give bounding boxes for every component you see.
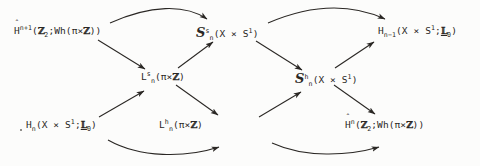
scan-speck — [20, 129, 22, 131]
arrow-arc-tl-to-tm — [110, 9, 207, 23]
node-middle-right: Shn(X × S1) — [295, 72, 357, 85]
node-paren-close: ) — [91, 119, 97, 130]
node-top-left: ˆHn+1(ℤ2;Wh(π×ℤ)) — [14, 26, 101, 36]
node-paren-close: ) — [451, 25, 457, 36]
script-s-symbol: S — [196, 25, 206, 40]
node-bottom-middle: Lhn(π×ℤ) — [159, 120, 203, 130]
node-args: (X × S — [36, 119, 71, 130]
node-subscript: n−1 — [384, 31, 396, 39]
node-bottom-right: ˆHn(ℤ2;Wh(π×ℤ)) — [345, 120, 424, 130]
arrow-mr-to-br — [334, 85, 375, 114]
node-whitehead-part: ;Wh(π× — [371, 119, 406, 130]
arrow-arc-tm-to-tr — [268, 8, 385, 23]
arrow-ml-to-bm — [176, 85, 218, 115]
circumflex-icon: ˆ — [14, 21, 19, 29]
circumflex-icon: ˆ — [345, 115, 350, 123]
node-args: (X × S — [396, 25, 431, 36]
arrow-tl-to-ml — [98, 40, 145, 69]
arrow-bl-to-ml — [99, 91, 144, 117]
node-paren-close: ) — [253, 28, 259, 39]
node-paren-close: )) — [413, 119, 425, 130]
node-args: (X × S — [313, 74, 348, 85]
node-args: (X × S — [214, 28, 249, 39]
node-top-middle: Ssn(X × S1) — [196, 26, 258, 39]
arrow-arc-bm-to-br — [272, 143, 379, 154]
node-bottom-left: Hn(X × S1;𝕃0) — [26, 120, 97, 130]
node-top-right: Hn−1(X × S1;𝕃0) — [378, 26, 457, 36]
node-whitehead-part: ;Wh(π× — [48, 25, 83, 36]
node-paren-close: ) — [352, 74, 358, 85]
hat-accent-group: ˆH — [14, 26, 20, 36]
arrow-tm-to-mr — [256, 41, 302, 70]
braid-diagram: ˆHn+1(ℤ2;Wh(π×ℤ)) Ssn(X × S1) Hn−1(X × S… — [0, 0, 480, 166]
node-paren-close: )) — [90, 25, 102, 36]
node-paren-close: ) — [179, 71, 185, 82]
node-superscript: n+1 — [20, 24, 32, 32]
arrow-ml-to-tm — [178, 42, 213, 68]
arrow-arc-bl-to-bm — [108, 140, 219, 155]
node-args: (π× — [155, 71, 172, 82]
script-s-symbol: S — [295, 71, 305, 86]
arrow-mr-to-tr — [335, 42, 374, 68]
node-args: (π× — [173, 119, 190, 130]
node-middle-left: Lsn(π×ℤ) — [141, 72, 185, 82]
hat-accent-group: ˆH — [345, 120, 351, 130]
node-paren-close: ) — [197, 119, 203, 130]
arrow-bm-to-mr — [259, 92, 301, 117]
